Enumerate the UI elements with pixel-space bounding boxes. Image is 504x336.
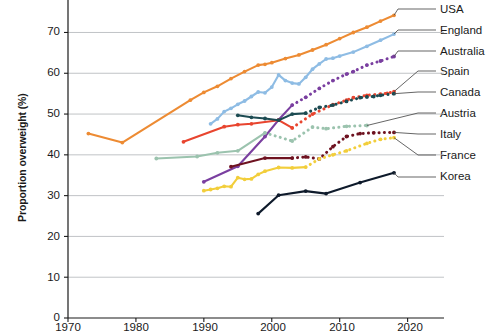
data-point [284,57,288,61]
data-point [379,137,383,141]
data-point [365,25,369,29]
data-point [365,95,369,99]
data-point [202,180,206,184]
data-point [209,122,213,126]
data-point [379,93,383,97]
data-point [87,132,91,136]
data-point [250,177,254,181]
data-point [290,156,294,160]
leader-line-usa [394,9,436,15]
data-point [236,149,240,153]
data-point [188,98,192,102]
data-point [277,166,281,170]
data-point [236,123,240,127]
series-canada [236,92,396,122]
data-point [154,157,158,161]
data-point [263,91,267,95]
leader-line-canada [394,92,436,94]
data-point [270,61,274,65]
series-line [306,138,394,167]
data-point [263,156,267,160]
data-point [324,57,328,61]
data-point [358,132,362,136]
data-point [317,106,321,110]
data-point [120,141,124,145]
data-point [379,19,383,23]
data-point [311,125,315,129]
data-point [263,62,267,66]
data-point [202,91,206,95]
data-point [324,43,328,47]
data-point [372,131,376,135]
data-point [365,44,369,48]
data-point [216,151,220,155]
overweight-proportion-line-chart: Proportion overweight (%) 70 60 50 40 30… [0,0,504,336]
data-point [304,189,308,193]
data-point [290,112,294,116]
data-point [236,102,240,106]
data-point [243,177,247,181]
data-point [304,95,308,99]
data-point [182,140,186,144]
plot-canvas [0,0,504,336]
data-point [297,82,301,86]
data-point [256,173,260,177]
leader-line-spain [394,71,436,92]
data-point [345,135,349,139]
data-point [277,193,281,197]
data-point [216,117,220,121]
data-point [324,192,328,196]
series-england [209,32,396,126]
data-point [236,113,240,117]
leader-line-italy [394,132,436,134]
data-point [256,63,260,67]
data-point [358,181,362,185]
data-point [270,85,274,89]
leader-line-korea [394,173,436,177]
series-france [202,136,396,193]
data-point [290,126,294,130]
data-point [222,110,226,114]
data-point [202,189,206,193]
data-point [256,212,260,216]
data-point [311,67,315,71]
data-point [345,72,349,76]
data-point [290,103,294,107]
series-line [265,126,367,142]
data-point [304,75,308,79]
data-point [250,115,254,119]
data-point [243,99,247,103]
data-point [365,142,369,146]
data-point [372,95,376,99]
data-point [229,106,233,110]
data-point [331,56,335,60]
data-point [304,111,308,115]
data-point [311,112,315,116]
data-point [331,145,335,149]
series-australia [202,55,396,184]
data-point [345,124,349,128]
data-point [222,184,226,188]
data-point [365,63,369,67]
data-point [317,157,321,161]
data-point [263,131,267,135]
data-point [216,84,220,88]
data-point [195,155,199,159]
data-point [338,54,342,58]
data-point [229,165,233,169]
data-point [284,79,288,83]
data-point [263,117,267,121]
leader-line-austria [367,113,436,126]
data-point [304,165,308,169]
data-point [317,62,321,66]
data-point [263,169,267,173]
data-point [243,70,247,74]
data-point [324,127,328,131]
data-point [290,139,294,143]
data-point [229,185,233,189]
data-point [331,153,335,157]
data-point [358,96,362,100]
data-point [290,166,294,170]
data-point [379,38,383,42]
data-point [351,70,355,74]
